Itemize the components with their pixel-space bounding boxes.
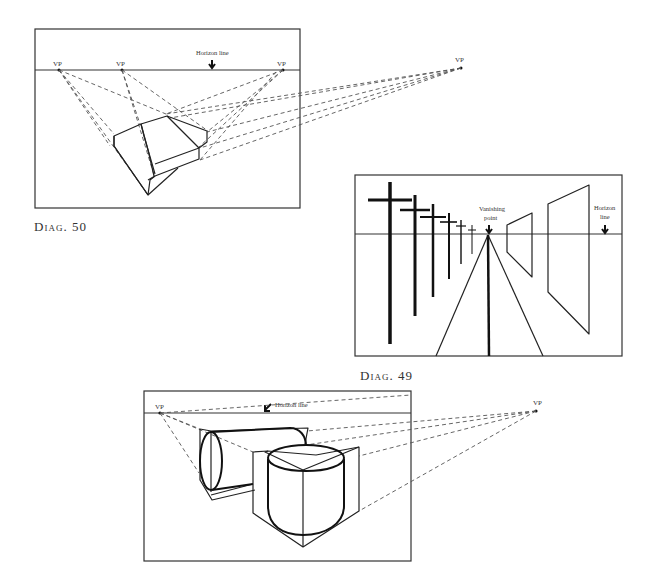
- vertical-cylinder-cube: [253, 445, 359, 547]
- horizon-line-label: line: [600, 213, 610, 220]
- vanishing-point-label: point: [484, 214, 498, 221]
- horizon-line-label: Horizon line: [196, 49, 229, 56]
- diagram-cylinders-frame: [144, 391, 411, 561]
- angled-box: [114, 116, 207, 195]
- far-signboard: [548, 185, 589, 334]
- arrow-down-icon: [602, 225, 608, 233]
- diagram-50: VP VP VP VP Horizon line: [35, 29, 464, 208]
- diagram-49: Vanishing point Horizon line: [355, 175, 622, 356]
- vp-label: VP: [277, 60, 286, 68]
- diagram-50-frame: [35, 29, 300, 208]
- vp-label: VP: [53, 60, 62, 68]
- vp-label: VP: [533, 399, 542, 407]
- arrow-down-icon: [486, 225, 492, 233]
- arrow-down-icon: [209, 60, 215, 68]
- telegraph-poles: [368, 182, 476, 344]
- vanishing-point-label: Vanishing: [479, 205, 506, 212]
- caption-diag-50: Diag. 50: [34, 219, 87, 235]
- construction-lines: [59, 68, 461, 195]
- caption-diag-49: Diag. 49: [360, 368, 413, 384]
- perspective-diagrams-canvas: VP VP VP VP Horizon line: [0, 0, 654, 562]
- horizontal-cylinder-box: [200, 428, 308, 500]
- diagram-cylinders: VP VP Horizon line: [144, 391, 542, 561]
- vp-label: VP: [455, 56, 464, 64]
- vp-label: VP: [155, 403, 164, 411]
- horizon-line-label: Horizon: [594, 204, 616, 211]
- vp-label: VP: [116, 60, 125, 68]
- near-signboard: [507, 213, 532, 277]
- road: [436, 235, 543, 356]
